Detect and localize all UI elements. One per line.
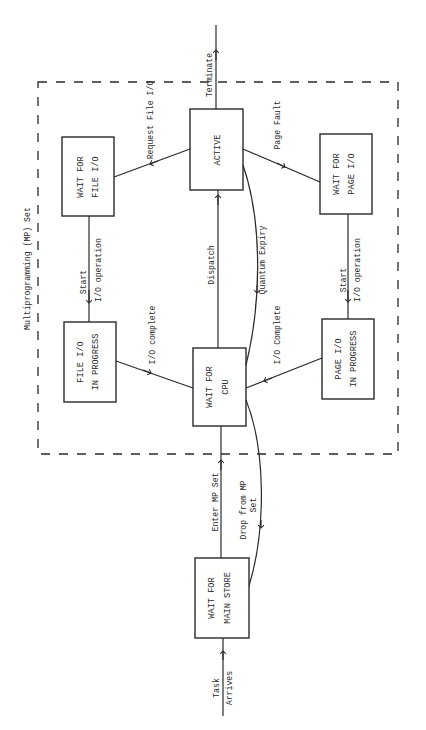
state-wait-file-io-line1: WAIT FOR <box>76 156 86 197</box>
task-arrives-label-line1: Task <box>212 678 221 698</box>
start-file-io-label-line1: Start <box>79 270 88 295</box>
state-wait-cpu: WAIT FOR CPU <box>193 348 246 426</box>
dispatch-label: Dispatch <box>207 245 216 284</box>
state-wait-page-io-line1: WAIT FOR <box>332 153 342 194</box>
request-file-io-label: Request File I/O <box>146 81 155 160</box>
state-wait-cpu-line2: CPU <box>221 379 231 394</box>
state-wait-main-store-line2: MAIN STORE <box>223 572 233 624</box>
state-wait-page-io: WAIT FOR PAGE I/O <box>320 134 372 214</box>
quantum-expiry-label: Quantum Expiry <box>258 226 267 295</box>
state-active: ACTIVE <box>190 109 243 190</box>
page-io-complete-edge <box>246 358 322 388</box>
file-io-complete-label: I/O complete <box>148 305 157 364</box>
mp-set-title: Multiprogramming (MP) Set <box>23 207 32 330</box>
drop-from-mp-set-label-line2: Set <box>249 498 258 513</box>
state-page-io-in-progress: PAGE I/O IN PROGRESS <box>322 319 374 399</box>
quantum-expiry-edge <box>243 165 258 365</box>
terminate-label: Terminate <box>205 53 214 97</box>
state-wait-page-io-line2: PAGE I/O <box>347 153 357 194</box>
page-io-complete-label: I/O Complete <box>273 305 282 364</box>
state-wait-main-store: WAIT FOR MAIN STORE <box>195 558 249 638</box>
state-wait-file-io-line2: FILE I/O <box>91 156 101 197</box>
state-active-label: ACTIVE <box>213 135 223 166</box>
state-transition-diagram: Multiprogramming (MP) Set Terminate ACTI… <box>0 0 426 730</box>
state-page-io-in-progress-line1: PAGE I/O <box>334 338 344 379</box>
start-page-io-label-line2: I/O operation <box>353 238 362 302</box>
state-page-io-in-progress-line2: IN PROGRESS <box>349 331 359 388</box>
state-wait-main-store-line1: WAIT FOR <box>207 577 217 618</box>
enter-mp-set-label: Enter MP Set <box>211 472 220 531</box>
start-file-io-label-line2: I/O operation <box>94 238 103 302</box>
page-fault-label: Page Fault <box>273 100 282 149</box>
drop-from-mp-set-label-line1: Drop from MP <box>239 480 248 539</box>
state-file-io-in-progress-line2: IN PROGRESS <box>91 334 101 391</box>
state-file-io-in-progress-line1: FILE I/O <box>76 341 86 382</box>
state-wait-cpu-line1: WAIT FOR <box>205 366 215 407</box>
state-file-io-in-progress: FILE I/O IN PROGRESS <box>64 322 116 402</box>
task-arrives-label-line2: Arrives <box>225 671 234 705</box>
start-page-io-label-line1: Start <box>339 268 348 293</box>
state-wait-file-io: WAIT FOR FILE I/O <box>62 137 114 216</box>
